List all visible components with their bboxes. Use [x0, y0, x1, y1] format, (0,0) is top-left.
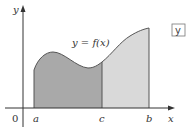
- point-b-label: b: [146, 113, 152, 124]
- x-axis-label: x: [168, 113, 174, 124]
- y-axis-label: y: [12, 4, 19, 15]
- integral-diagram: y x 0 a c b y = f(x) y: [0, 0, 192, 134]
- region-a-to-c: [34, 52, 102, 108]
- corner-tag-label: y: [175, 25, 181, 36]
- curve-label: y = f(x): [71, 37, 110, 48]
- origin-label: 0: [12, 113, 18, 124]
- point-a-label: a: [33, 113, 39, 124]
- x-axis-arrow-icon: [168, 106, 175, 111]
- y-axis-arrow-icon: [21, 5, 26, 12]
- point-c-label: c: [99, 113, 105, 124]
